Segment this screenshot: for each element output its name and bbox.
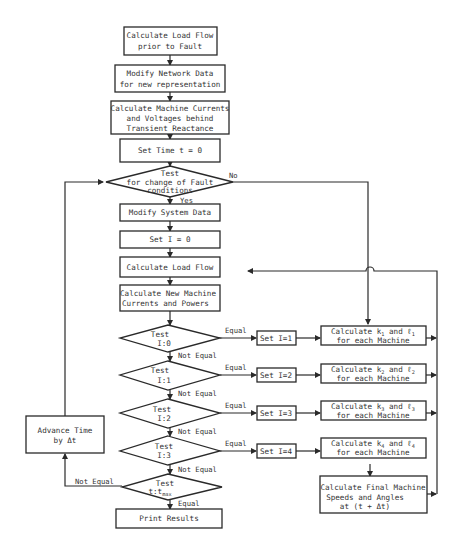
flowchart-svg: Calculate Load Flow prior to Fault Modif… xyxy=(0,0,459,554)
svg-text:No: No xyxy=(229,171,238,180)
advance-time-box: Advance Time by Δt xyxy=(26,416,104,453)
svg-text:by Δt: by Δt xyxy=(54,436,77,445)
svg-text:Set I=4: Set I=4 xyxy=(260,447,292,456)
svg-text:at (t + Δt): at (t + Δt) xyxy=(340,502,390,511)
test-i0-decision: Test I:0 xyxy=(120,325,220,352)
svg-text:Advance Time: Advance Time xyxy=(38,426,93,435)
svg-text:Calculate Load Flow: Calculate Load Flow xyxy=(127,31,214,40)
svg-text:Not Equal: Not Equal xyxy=(178,427,217,436)
svg-text:Equal: Equal xyxy=(225,439,247,448)
svg-text:Test: Test xyxy=(161,169,179,178)
modify-network-box: Modify Network Data for new representati… xyxy=(115,65,225,92)
svg-text:Set I=1: Set I=1 xyxy=(260,334,292,343)
test-tmax-decision: Test t:tmax xyxy=(122,474,222,500)
svg-text:Modify Network Data: Modify Network Data xyxy=(127,69,214,78)
svg-text:Transient Reactance: Transient Reactance xyxy=(127,124,214,133)
set-i3-box: Set I=3 xyxy=(257,406,296,420)
svg-text:I:3: I:3 xyxy=(157,451,171,460)
calc-k2-box: Calculate k2 and ℓ2 for each Machine xyxy=(321,364,426,383)
svg-text:conditions: conditions xyxy=(147,186,193,195)
svg-text:Test: Test xyxy=(151,366,169,375)
test-i2-decision: Test I:2 xyxy=(120,399,220,428)
svg-text:Equal: Equal xyxy=(225,401,247,410)
set-i1-box: Set I=1 xyxy=(257,331,296,345)
calc-k1-box: Calculate k1 and ℓ1 for each Machine xyxy=(321,326,426,345)
svg-text:for each Machine: for each Machine xyxy=(336,448,410,457)
fault-change-decision: Test for change of Fault conditions xyxy=(106,166,233,197)
svg-text:Print Results: Print Results xyxy=(139,514,198,523)
svg-text:Calculate Load Flow: Calculate Load Flow xyxy=(127,263,214,272)
svg-text:Calculate Final Machine: Calculate Final Machine xyxy=(320,483,426,492)
set-i2-box: Set I=2 xyxy=(257,368,296,382)
set-i4-box: Set I=4 xyxy=(257,444,296,458)
svg-text:for each Machine: for each Machine xyxy=(336,336,410,345)
set-time-box: Set Time t = 0 xyxy=(120,139,220,162)
svg-text:Calculate Machine Currents: Calculate Machine Currents xyxy=(111,104,230,113)
svg-text:Speeds and Angles: Speeds and Angles xyxy=(326,493,404,502)
svg-text:for each Machine: for each Machine xyxy=(336,411,410,420)
svg-text:Not Equal: Not Equal xyxy=(178,351,217,360)
svg-text:I:2: I:2 xyxy=(157,414,171,423)
svg-text:I:1: I:1 xyxy=(157,376,171,385)
svg-text:Currents and Powers: Currents and Powers xyxy=(122,299,209,308)
test-i1-decision: Test I:1 xyxy=(120,361,220,390)
svg-text:Set Time t = 0: Set Time t = 0 xyxy=(138,146,202,155)
calc-k4-box: Calculate k4 and ℓ4 for each Machine xyxy=(321,438,426,458)
svg-text:Calculate New Machine: Calculate New Machine xyxy=(120,289,216,298)
svg-text:for each Machine: for each Machine xyxy=(336,374,410,383)
svg-text:Equal: Equal xyxy=(225,326,247,335)
svg-text:Test: Test xyxy=(151,330,169,339)
svg-text:Set I = 0: Set I = 0 xyxy=(149,235,191,244)
svg-text:Equal: Equal xyxy=(178,499,200,508)
set-i0-box: Set I = 0 xyxy=(120,231,220,248)
machine-currents-box: Calculate Machine Currents and Voltages … xyxy=(111,101,230,134)
load-flow-prior-box: Calculate Load Flow prior to Fault xyxy=(124,27,217,55)
new-machine-currents-box: Calculate New Machine Currents and Power… xyxy=(120,285,220,311)
flowchart-canvas: Calculate Load Flow prior to Fault Modif… xyxy=(0,0,459,554)
modify-system-box: Modify System Data xyxy=(120,204,220,221)
final-speeds-box: Calculate Final Machine Speeds and Angle… xyxy=(320,476,427,513)
svg-text:Not Equal: Not Equal xyxy=(178,465,217,474)
calc-k3-box: Calculate k3 and ℓ3 for each Machine xyxy=(321,401,426,420)
test-i3-decision: Test I:3 xyxy=(120,436,220,465)
svg-text:Not Equal: Not Equal xyxy=(75,477,114,486)
load-flow-box: Calculate Load Flow xyxy=(120,257,220,277)
svg-text:Yes: Yes xyxy=(180,196,193,205)
svg-text:for new representation: for new representation xyxy=(120,80,221,89)
svg-text:Not Equal: Not Equal xyxy=(178,389,217,398)
svg-text:prior to Fault: prior to Fault xyxy=(138,42,202,51)
svg-text:Equal: Equal xyxy=(225,363,247,372)
svg-text:Test: Test xyxy=(153,405,171,414)
svg-text:Test: Test xyxy=(155,442,173,451)
svg-text:and Voltages behind: and Voltages behind xyxy=(127,114,214,123)
svg-text:I:0: I:0 xyxy=(157,339,171,348)
svg-text:Set I=3: Set I=3 xyxy=(260,409,292,418)
print-results-box: Print Results xyxy=(116,509,222,528)
svg-text:Modify System Data: Modify System Data xyxy=(129,208,211,217)
svg-text:Set I=2: Set I=2 xyxy=(260,371,292,380)
